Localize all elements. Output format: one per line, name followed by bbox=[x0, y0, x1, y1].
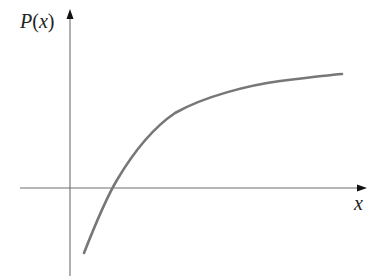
y-axis-label: P(x) bbox=[19, 10, 54, 33]
x-axis-arrow-icon bbox=[357, 185, 367, 192]
x-axis-label: x bbox=[353, 192, 363, 214]
y-axis-arrow-icon bbox=[67, 9, 74, 19]
diagram-canvas: P(x) x bbox=[0, 0, 375, 276]
function-curve bbox=[84, 74, 342, 253]
